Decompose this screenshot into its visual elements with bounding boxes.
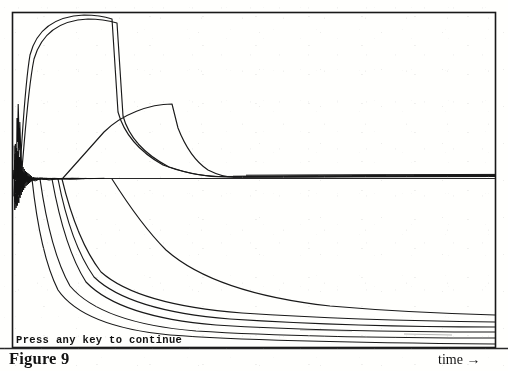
curve-decay-3 [52, 179, 495, 332]
curve-overshoot-3 [63, 104, 495, 178]
transient-ringing-burst [13, 144, 104, 210]
plot-frame [13, 13, 496, 348]
scan-smudge [252, 175, 452, 335]
transient-response-plot [0, 0, 508, 371]
curve-decay-slow [112, 179, 495, 315]
curve-decay-4 [58, 179, 495, 327]
curve-decay-5 [62, 179, 495, 322]
press-any-key-prompt: Press any key to continue [16, 334, 182, 346]
curve-decay-1 [32, 179, 495, 344]
curve-overshoot-2 [21, 19, 495, 178]
x-axis-label: time → [438, 352, 480, 368]
figure-page: Press any key to continue Figure 9 time … [0, 0, 508, 371]
caption-bar [0, 348, 508, 371]
curve-overshoot-1 [19, 15, 495, 178]
figure-caption: Figure 9 [9, 349, 69, 369]
